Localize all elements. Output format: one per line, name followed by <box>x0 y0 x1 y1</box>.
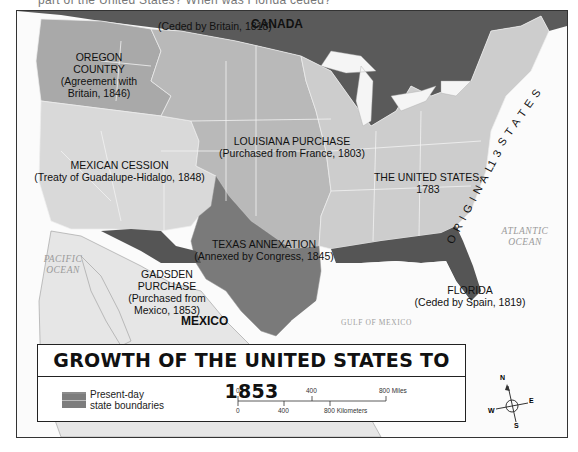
compass-w: W <box>488 407 495 414</box>
scale-miles-800: 800 Miles <box>379 387 407 394</box>
map-legend: GROWTH OF THE UNITED STATES TO 1853 Pres… <box>37 344 466 422</box>
oregon-detail-2: Britain, 1846) <box>59 87 139 99</box>
scale-km-0: 0 <box>236 407 240 414</box>
map-title: GROWTH OF THE UNITED STATES TO 1853 <box>38 345 465 377</box>
swatch-label: Present-day state boundaries <box>90 389 164 411</box>
louisiana-name: LOUISIANA PURCHASE <box>207 135 377 147</box>
pacific-line-1: PACIFIC <box>33 254 93 265</box>
mexican-cession-name: MEXICAN CESSION <box>27 159 212 171</box>
state-boundaries-swatch <box>62 392 86 408</box>
florida-label: FLORIDA (Ceded by Spain, 1819) <box>410 284 530 308</box>
partial-caption-text: part of the United States? When was Flor… <box>38 0 331 7</box>
florida-detail: (Ceded by Spain, 1819) <box>410 296 530 308</box>
us-1783-detail: 1783 <box>373 183 483 195</box>
gadsden-label: GADSDEN PURCHASE (Purchased from Mexico,… <box>127 268 207 316</box>
atlantic-ocean-label: ATLANTIC OCEAN <box>495 226 555 248</box>
scale-miles-400: 400 <box>306 387 317 394</box>
oregon-name-2: COUNTRY <box>59 63 139 75</box>
mexican-cession-detail: (Treaty of Guadalupe-Hidalgo, 1848) <box>27 171 212 183</box>
scale-bar: 0 400 800 Miles 0 400 800 Kilometers <box>234 383 434 419</box>
louisiana-detail: (Purchased from France, 1803) <box>207 147 377 159</box>
mexico-label: MEXICO <box>181 315 228 327</box>
scale-km-400: 400 <box>278 407 289 414</box>
florida-name: FLORIDA <box>410 284 530 296</box>
compass-s: S <box>514 422 519 429</box>
compass-rose: N S E W <box>488 378 538 428</box>
texas-detail: (Annexed by Congress, 1845) <box>189 250 339 262</box>
pacific-line-2: OCEAN <box>33 265 93 276</box>
canada-label: CANADA <box>251 18 303 30</box>
gadsden-name: GADSDEN <box>127 268 207 280</box>
pacific-ocean-label: PACIFIC OCEAN <box>33 254 93 276</box>
gadsden-detail-1: (Purchased from <box>127 292 207 304</box>
us-1783-name: THE UNITED STATES, <box>373 171 483 183</box>
texas-name: TEXAS ANNEXATION <box>189 238 339 250</box>
atlantic-line-2: OCEAN <box>495 237 555 248</box>
us-1783-label: THE UNITED STATES, 1783 <box>373 171 483 195</box>
gadsden-name-2: PURCHASE <box>127 280 207 292</box>
swatch-label-line-1: Present-day <box>90 389 164 400</box>
scale-miles-0: 0 <box>236 387 240 394</box>
oregon-detail-1: (Agreement with <box>59 75 139 87</box>
compass-n: N <box>500 374 505 381</box>
compass-e: E <box>529 397 534 404</box>
atlantic-line-1: ATLANTIC <box>495 226 555 237</box>
scale-km-800: 800 Kilometers <box>324 407 367 414</box>
mexican-cession-label: MEXICAN CESSION (Treaty of Guadalupe-Hid… <box>27 159 212 183</box>
oregon-label: OREGON COUNTRY (Agreement with Britain, … <box>59 51 139 99</box>
gulf-of-mexico-label: GULF OF MEXICO <box>341 318 412 327</box>
swatch-label-line-2: state boundaries <box>90 400 164 411</box>
texas-label: TEXAS ANNEXATION (Annexed by Congress, 1… <box>189 238 339 262</box>
louisiana-label: LOUISIANA PURCHASE (Purchased from Franc… <box>207 135 377 159</box>
oregon-name: OREGON <box>59 51 139 63</box>
